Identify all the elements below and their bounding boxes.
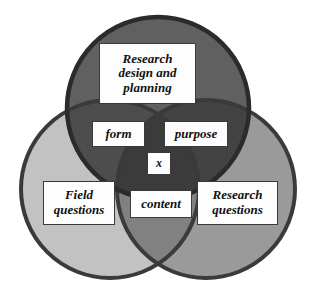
label-line: Research (213, 188, 263, 203)
label-line: x (156, 157, 162, 170)
label-field-questions: Field questions (43, 181, 115, 225)
label-line: Research (123, 52, 173, 67)
label-content: content (130, 190, 192, 218)
label-research-questions: Research questions (197, 181, 278, 225)
label-line: questions (212, 203, 263, 218)
label-line: questions (54, 203, 105, 218)
venn-diagram-canvas: Research design and planning form purpos… (0, 0, 316, 298)
label-line: form (106, 127, 132, 142)
label-line: purpose (175, 127, 218, 142)
label-line: design and (118, 66, 176, 81)
label-purpose: purpose (164, 121, 228, 147)
label-line: content (141, 197, 181, 212)
label-line: Field (65, 188, 93, 203)
label-research-design-and-planning: Research design and planning (99, 43, 196, 104)
label-form: form (92, 121, 145, 147)
label-x: x (147, 152, 171, 175)
label-line: planning (123, 81, 171, 96)
